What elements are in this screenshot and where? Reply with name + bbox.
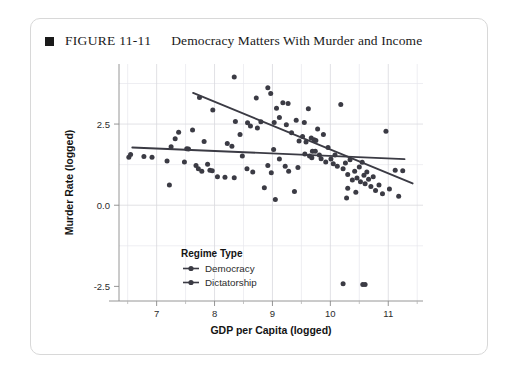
axes <box>109 64 423 306</box>
gridlines <box>119 64 423 301</box>
legend-item-dictatorship[interactable]: Dictatorship <box>183 277 257 288</box>
legend-title: Regime Type <box>181 248 243 259</box>
trendline-dictatorship <box>132 147 404 159</box>
y-axis-title: Murder Rate (logged) <box>63 130 75 236</box>
legend-label: Dictatorship <box>205 277 257 288</box>
y-tick-label: -2.5 <box>94 281 110 292</box>
minor-gridlines <box>119 64 423 301</box>
x-tick-label: 10 <box>325 308 336 319</box>
x-axis-title: GDP per Capita (logged) <box>210 324 331 336</box>
y-tick-label: 0.0 <box>97 200 110 211</box>
figure-page: FIGURE 11-11 Democracy Matters With Murd… <box>0 0 520 376</box>
x-tick-label: 8 <box>212 308 217 319</box>
chart-canvas: 7891011-2.50.02.5 Regime TypeDemocracyDi… <box>31 19 489 356</box>
x-tick-label: 7 <box>154 308 159 319</box>
data-points <box>126 74 405 286</box>
x-tick-label: 11 <box>383 308 393 319</box>
y-tick-label: 2.5 <box>97 119 110 130</box>
legend-label: Democracy <box>205 263 255 274</box>
x-tick-label: 9 <box>270 308 275 319</box>
figure-card: FIGURE 11-11 Democracy Matters With Murd… <box>30 18 488 355</box>
legend-item-democracy[interactable]: Democracy <box>183 263 255 274</box>
chart-legend: Regime TypeDemocracyDictatorship <box>181 248 257 288</box>
scatter-plot: 7891011-2.50.02.5 Regime TypeDemocracyDi… <box>31 19 489 356</box>
trendline-democracy <box>193 93 412 184</box>
